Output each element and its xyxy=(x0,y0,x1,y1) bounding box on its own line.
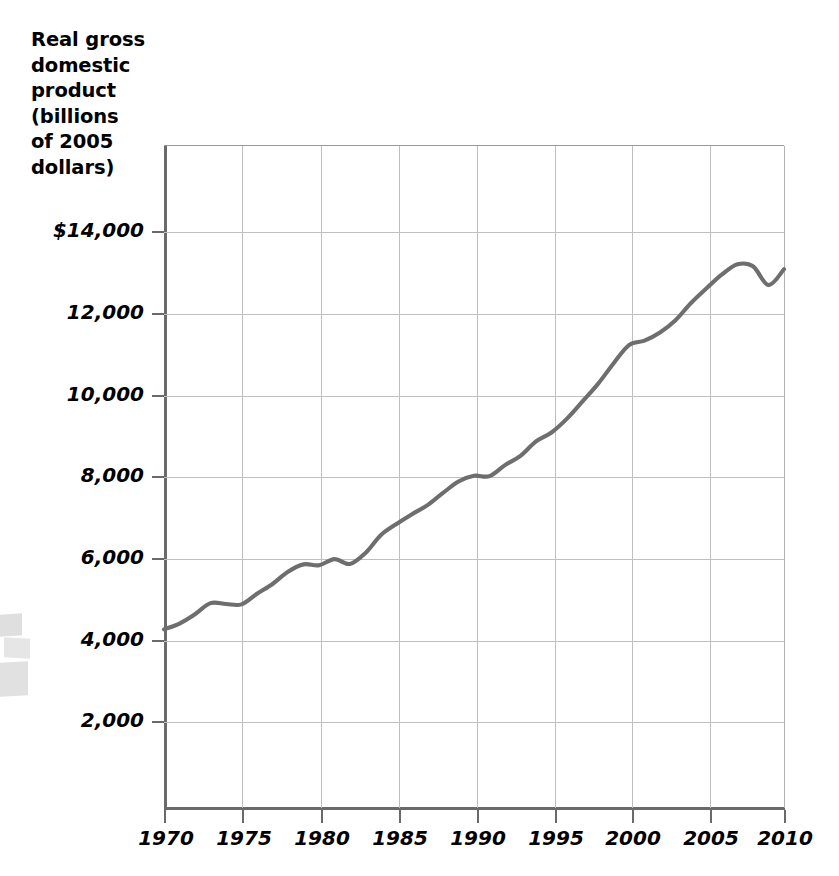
tick-y-10000 xyxy=(152,395,164,397)
x-tick-label-1970: 1970 xyxy=(121,826,211,850)
gridline-x-2000 xyxy=(632,146,633,808)
x-tick-label-2000: 2000 xyxy=(588,826,678,850)
gridline-y-12000 xyxy=(164,314,784,315)
tick-x-1970 xyxy=(164,810,166,823)
gridline-x-2005 xyxy=(710,146,711,808)
tick-x-1995 xyxy=(555,810,557,823)
gridline-x-1985 xyxy=(399,146,400,808)
gridline-y-6000 xyxy=(164,559,784,560)
gridline-y-10000 xyxy=(164,396,784,397)
y-tick-label-2000: 2,000 xyxy=(34,708,144,732)
gridline-x-2010 xyxy=(784,146,785,808)
y-tick-label-8000: 8,000 xyxy=(34,463,144,487)
tick-y-8000 xyxy=(152,476,164,478)
y-tick-label-14000: $14,000 xyxy=(34,218,144,242)
tick-y-14000 xyxy=(152,231,164,233)
tick-y-12000 xyxy=(152,313,164,315)
tick-x-1975 xyxy=(242,810,244,823)
tick-x-1990 xyxy=(477,810,479,823)
x-tick-label-2010: 2010 xyxy=(740,826,830,850)
gridline-x-1975 xyxy=(242,146,243,808)
y-tick-label-10000: 10,000 xyxy=(34,382,144,406)
gridline-x-1990 xyxy=(477,146,478,808)
gridline-y-14000 xyxy=(164,232,784,233)
x-tick-label-1980: 1980 xyxy=(277,826,367,850)
tick-x-1980 xyxy=(321,810,323,823)
tick-x-2010 xyxy=(784,810,786,823)
x-tick-label-1990: 1990 xyxy=(433,826,523,850)
tick-y-6000 xyxy=(152,558,164,560)
tick-y-2000 xyxy=(152,721,164,723)
gridline-x-1980 xyxy=(321,146,322,808)
gridline-y-2000 xyxy=(164,722,784,723)
gridline-x-1995 xyxy=(555,146,556,808)
gridline-y-4000 xyxy=(164,641,784,642)
page-scan-artifact xyxy=(0,612,34,704)
y-tick-label-12000: 12,000 xyxy=(34,300,144,324)
plot-top-border xyxy=(164,145,784,146)
tick-y-4000 xyxy=(152,640,164,642)
x-tick-label-1985: 1985 xyxy=(355,826,445,850)
tick-x-2000 xyxy=(632,810,634,823)
tick-x-1985 xyxy=(399,810,401,823)
y-axis-title: Real gross domestic product (billions of… xyxy=(31,27,163,180)
y-tick-label-4000: 4,000 xyxy=(34,627,144,651)
y-tick-label-6000: 6,000 xyxy=(34,545,144,569)
gridline-y-8000 xyxy=(164,477,784,478)
gdp-line-chart-figure: Real gross domestic product (billions of… xyxy=(0,0,839,876)
x-tick-label-1975: 1975 xyxy=(199,826,289,850)
tick-x-2005 xyxy=(710,810,712,823)
